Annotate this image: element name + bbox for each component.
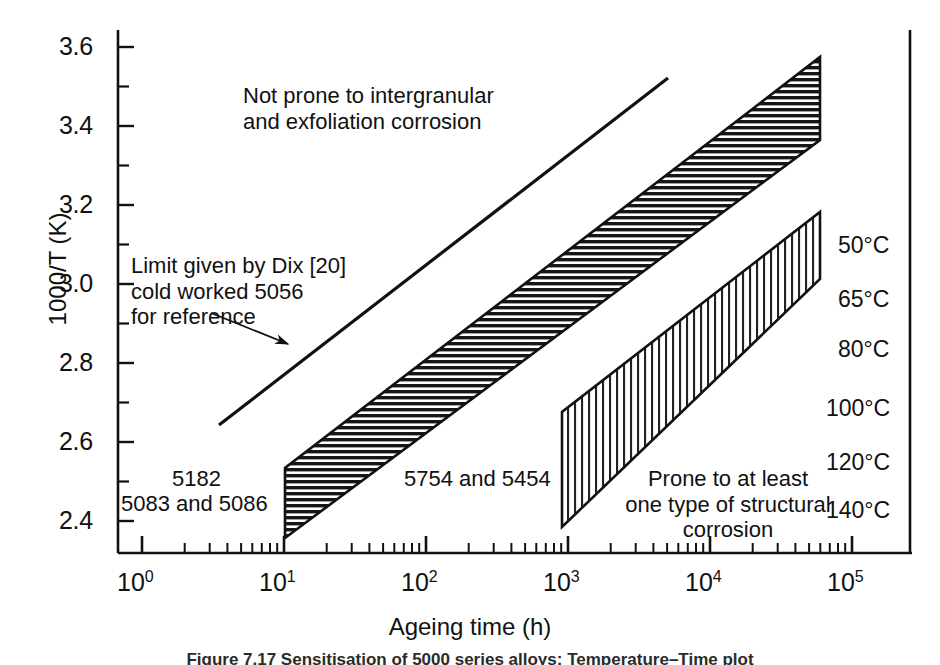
x-tick-exponent: 3 bbox=[571, 568, 580, 585]
temp-label-50c: 50°C bbox=[838, 232, 889, 259]
x-tick-label-1e4: 104 bbox=[685, 568, 722, 597]
annotation-alloy-5754-5454: 5754 and 5454 bbox=[404, 466, 551, 492]
y-tick-label-2-6: 2.6 bbox=[59, 427, 93, 456]
y-axis-title: 1000/T (K) bbox=[44, 189, 72, 349]
x-tick-label-1e5: 105 bbox=[827, 568, 864, 597]
x-tick-mantissa: 10 bbox=[685, 568, 713, 596]
x-tick-exponent: 4 bbox=[713, 568, 722, 585]
x-tick-label-1e0: 100 bbox=[117, 568, 154, 597]
annotation-prone-region: Prone to at least one type of structural… bbox=[608, 466, 848, 543]
figure-container: 3.6 3.4 3.2 3.0 2.8 2.6 2.4 1000/T (K) 1… bbox=[0, 0, 940, 665]
figure-caption: Figure 7.17 Sensitisation of 5000 series… bbox=[0, 650, 940, 665]
temp-label-65c: 65°C bbox=[838, 286, 889, 313]
annotation-alloy-5083-5086: 5083 and 5086 bbox=[121, 491, 268, 517]
x-tick-exponent: 5 bbox=[855, 568, 864, 585]
x-tick-exponent: 0 bbox=[145, 568, 154, 585]
x-tick-mantissa: 10 bbox=[259, 568, 287, 596]
temp-label-80c: 80°C bbox=[838, 336, 889, 363]
x-tick-label-1e3: 103 bbox=[543, 568, 580, 597]
x-tick-mantissa: 10 bbox=[543, 568, 571, 596]
x-tick-mantissa: 10 bbox=[827, 568, 855, 596]
x-tick-label-1e1: 101 bbox=[259, 568, 296, 597]
x-tick-label-1e2: 102 bbox=[401, 568, 438, 597]
annotation-dix-reference: Limit given by Dix [20] cold worked 5056… bbox=[131, 253, 346, 330]
x-tick-exponent: 1 bbox=[287, 568, 296, 585]
x-tick-exponent: 2 bbox=[429, 568, 438, 585]
y-tick-label-3-4: 3.4 bbox=[59, 111, 93, 140]
x-tick-mantissa: 10 bbox=[117, 568, 145, 596]
annotation-alloy-5182: 5182 bbox=[172, 466, 221, 492]
y-tick-label-2-4: 2.4 bbox=[59, 506, 93, 535]
annotation-not-prone-region: Not prone to intergranular and exfoliati… bbox=[243, 83, 494, 134]
y-tick-label-2-8: 2.8 bbox=[59, 348, 93, 377]
y-tick-label-3-6: 3.6 bbox=[59, 32, 93, 61]
temp-label-100c: 100°C bbox=[826, 395, 890, 422]
x-axis-title: Ageing time (h) bbox=[0, 613, 940, 641]
x-tick-mantissa: 10 bbox=[401, 568, 429, 596]
